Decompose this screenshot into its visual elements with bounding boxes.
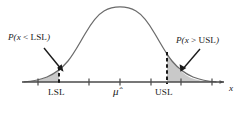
lower-callout-prefix: P( — [8, 32, 17, 42]
usl-axis-label: USL — [155, 88, 173, 97]
lower-callout-limit: LSL — [31, 32, 47, 42]
upper-callout-operator: > — [189, 35, 199, 45]
x-axis-label: x — [229, 84, 233, 93]
lower-tail-shaded-region — [24, 71, 59, 82]
upper-tail-probability-label: P(x > USL) — [176, 36, 219, 45]
upper-callout-suffix: ) — [216, 35, 219, 45]
distribution-plot — [0, 0, 242, 113]
upper-callout-limit: USL — [199, 35, 216, 45]
upper-tail-arrow — [180, 49, 200, 72]
upper-callout-prefix: P( — [176, 35, 185, 45]
lower-callout-operator: < — [21, 32, 31, 42]
lsl-axis-label: LSL — [48, 88, 65, 97]
lower-tail-arrow — [44, 48, 64, 72]
x-axis-arrowhead — [220, 80, 225, 83]
lower-tail-probability-label: P(x < LSL) — [8, 33, 50, 42]
lower-callout-suffix: ) — [47, 32, 50, 42]
normal-distribution-figure: P(x < LSL) P(x > USL) LSL μ̂ USL x — [0, 0, 242, 113]
mu-hat-axis-label: μ̂ — [113, 86, 119, 97]
